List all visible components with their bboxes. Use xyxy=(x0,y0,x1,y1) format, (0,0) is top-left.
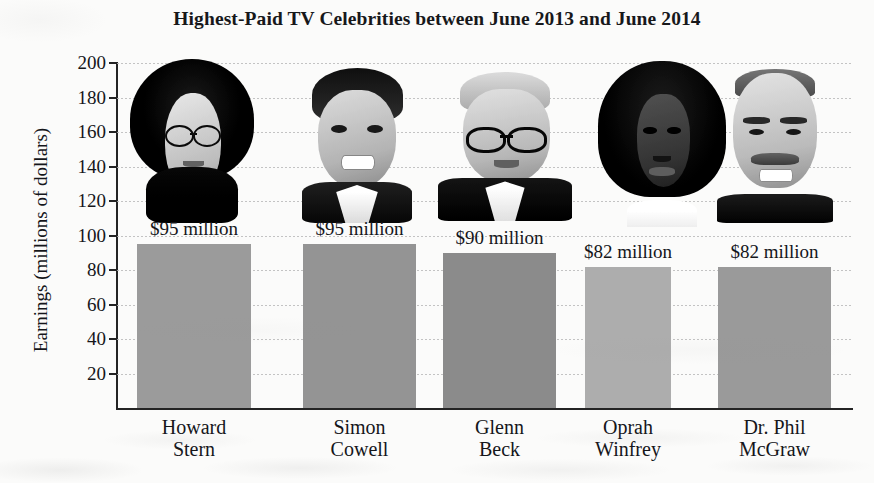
x-axis-label: HowardStern xyxy=(162,416,226,461)
x-axis-label-line2: Beck xyxy=(475,438,524,460)
y-axis-tick-label: 40 xyxy=(87,328,106,350)
bar-value-label: $95 million xyxy=(315,218,403,240)
y-axis-tick-mark xyxy=(109,97,117,99)
bar[interactable] xyxy=(443,253,556,408)
bar-value-label: $90 million xyxy=(455,227,543,249)
y-axis-tick-label: 140 xyxy=(78,156,107,178)
y-axis-tick-mark xyxy=(109,373,117,375)
bar[interactable] xyxy=(303,244,416,408)
y-axis-tick-mark xyxy=(109,304,117,306)
y-axis-tick-label: 100 xyxy=(78,225,107,247)
bar[interactable] xyxy=(585,267,671,408)
bar-value-label: $82 million xyxy=(584,241,672,263)
x-axis-label-line2: Stern xyxy=(162,438,226,460)
x-axis-label-line2: Winfrey xyxy=(595,438,661,460)
x-axis-line xyxy=(116,408,853,410)
x-axis-label-line2: McGraw xyxy=(739,438,810,460)
chart-page: Highest-Paid TV Celebrities between June… xyxy=(0,0,874,483)
y-axis-tick-label: 200 xyxy=(78,52,107,74)
bar-value-label: $95 million xyxy=(150,218,238,240)
y-axis-tick-label: 180 xyxy=(78,87,107,109)
y-axis-tick-mark xyxy=(109,338,117,340)
portrait-glenn-beck xyxy=(435,69,575,221)
x-axis-label: SimonCowell xyxy=(331,416,389,461)
y-axis-tick-label: 120 xyxy=(78,190,107,212)
x-axis-label: GlennBeck xyxy=(475,416,524,461)
x-axis-label-line1: Howard xyxy=(162,416,226,438)
x-axis-label: OprahWinfrey xyxy=(595,416,661,461)
y-axis-tick-label: 60 xyxy=(87,294,106,316)
y-axis-tick-label: 160 xyxy=(78,121,107,143)
portrait-simon-cowell xyxy=(292,65,422,223)
y-axis-tick-label: 80 xyxy=(87,259,106,281)
portrait-dr-phil-mcgraw xyxy=(709,63,841,223)
y-axis-tick-mark xyxy=(109,62,117,64)
y-axis-tick-mark xyxy=(109,166,117,168)
x-axis-label-line1: Oprah xyxy=(595,416,661,438)
x-axis-label-line2: Cowell xyxy=(331,438,389,460)
y-axis-tick-mark xyxy=(109,200,117,202)
portrait-howard-stern xyxy=(125,59,259,223)
bar[interactable] xyxy=(137,244,251,408)
x-axis-label-line1: Simon xyxy=(331,416,389,438)
x-axis-label-line1: Glenn xyxy=(475,416,524,438)
y-axis-title: Earnings (millions of dollars) xyxy=(30,80,52,400)
bar-value-label: $82 million xyxy=(730,241,818,263)
plot-area: 20018016014012010080604020 $95 million$9… xyxy=(117,63,853,408)
x-axis-label: Dr. PhilMcGraw xyxy=(739,416,810,461)
y-axis-tick-mark xyxy=(109,235,117,237)
bar[interactable] xyxy=(718,267,831,408)
y-axis-tick-mark xyxy=(109,269,117,271)
page-title: Highest-Paid TV Celebrities between June… xyxy=(0,8,874,30)
y-axis-tick-label: 20 xyxy=(87,363,106,385)
y-axis-tick-mark xyxy=(109,131,117,133)
x-axis-label-line1: Dr. Phil xyxy=(739,416,810,438)
